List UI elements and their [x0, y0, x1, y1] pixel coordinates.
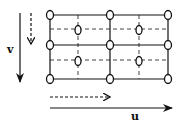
node [165, 75, 172, 84]
inner-node [75, 57, 81, 66]
node [107, 75, 114, 84]
node [47, 75, 54, 84]
inner-node [75, 26, 81, 35]
node [107, 41, 114, 50]
node [165, 41, 172, 50]
inner-node [136, 26, 142, 35]
node [47, 41, 54, 50]
v-label: v [6, 43, 14, 56]
diagram-svg: v u [0, 0, 186, 128]
node [107, 11, 114, 20]
grid-diagram: v u [0, 0, 186, 128]
node [47, 11, 54, 20]
u-label: u [131, 110, 139, 123]
inner-node [136, 57, 142, 66]
outer-nodes [47, 11, 172, 84]
node [165, 11, 172, 20]
